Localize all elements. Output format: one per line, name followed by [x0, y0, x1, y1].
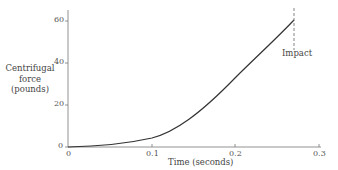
y-tick-60: 60	[54, 15, 64, 24]
x-tick-0: 0	[66, 149, 71, 158]
x-tick-0.3: 0.3	[313, 149, 326, 158]
x-tick-0.1: 0.1	[146, 149, 159, 158]
y-ticks	[65, 21, 68, 147]
y-tick-20: 20	[54, 99, 64, 108]
y-axis-label: Centrifugal force (pounds)	[4, 63, 56, 95]
y-axis-label-line2: force	[4, 74, 56, 85]
impact-label: Impact	[282, 48, 312, 58]
y-tick-40: 40	[54, 57, 64, 66]
force-curve	[68, 20, 294, 147]
x-ticks	[152, 144, 319, 147]
y-tick-0: 0	[58, 141, 63, 150]
y-axis-label-line1: Centrifugal	[4, 63, 56, 74]
y-axis-label-line3: (pounds)	[4, 84, 56, 95]
x-axis-label: Time (seconds)	[168, 157, 233, 167]
